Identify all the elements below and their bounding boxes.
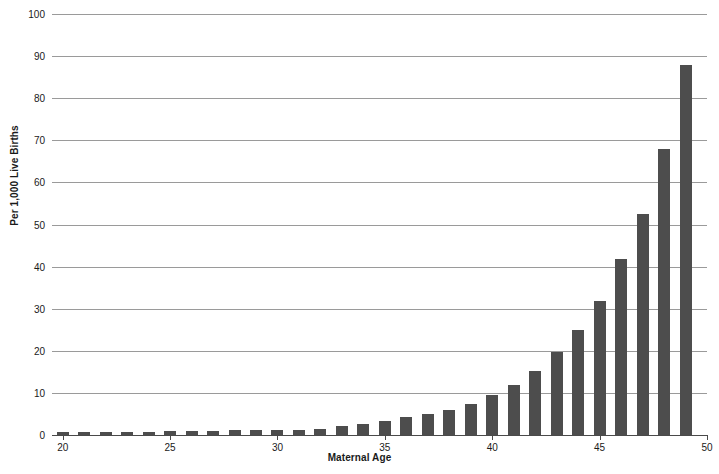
bar	[422, 414, 434, 435]
y-axis-title: Per 1,000 Live Births	[9, 86, 20, 266]
bar	[100, 432, 112, 435]
x-tick-mark	[707, 435, 708, 440]
bar	[143, 432, 155, 435]
bar	[637, 214, 649, 435]
bar	[508, 385, 520, 435]
bar	[680, 65, 692, 435]
bar	[465, 404, 477, 435]
gridline	[52, 98, 707, 99]
bar	[486, 395, 498, 435]
bar	[121, 432, 133, 435]
bar	[529, 371, 541, 435]
gridline	[52, 225, 707, 226]
bar	[293, 430, 305, 435]
bar	[615, 259, 627, 435]
bar	[314, 429, 326, 435]
y-tick-label: 60	[34, 177, 45, 188]
x-tick-mark	[492, 435, 493, 440]
y-tick-label: 90	[34, 51, 45, 62]
y-tick-label: 20	[34, 345, 45, 356]
x-tick-mark	[170, 435, 171, 440]
bar	[357, 424, 369, 435]
gridline	[52, 351, 707, 352]
x-axis-line	[52, 435, 707, 436]
y-tick-label: 100	[28, 9, 45, 20]
gridline	[52, 393, 707, 394]
x-axis-title: Maternal Age	[0, 452, 719, 463]
gridline	[52, 140, 707, 141]
bar	[400, 417, 412, 435]
x-tick-mark	[63, 435, 64, 440]
x-tick-mark	[277, 435, 278, 440]
chart-title	[0, 0, 719, 4]
bar	[443, 410, 455, 435]
bar	[572, 330, 584, 435]
bar	[229, 430, 241, 435]
x-tick-mark	[385, 435, 386, 440]
bar	[379, 421, 391, 435]
y-tick-label: 70	[34, 135, 45, 146]
gridline	[52, 14, 707, 15]
y-tick-label: 40	[34, 261, 45, 272]
gridline	[52, 56, 707, 57]
y-tick-label: 50	[34, 219, 45, 230]
bar	[551, 352, 563, 435]
bar	[250, 430, 262, 435]
y-tick-label: 30	[34, 303, 45, 314]
y-tick-label: 0	[39, 430, 45, 441]
gridline	[52, 182, 707, 183]
chart-figure: Per 1,000 Live Births 010203040506070809…	[0, 0, 719, 474]
gridline	[52, 267, 707, 268]
bar	[186, 431, 198, 435]
bar	[594, 301, 606, 435]
x-tick-mark	[600, 435, 601, 440]
y-tick-label: 80	[34, 93, 45, 104]
y-tick-label: 10	[34, 387, 45, 398]
bar	[78, 432, 90, 435]
bar	[658, 149, 670, 435]
bar	[207, 431, 219, 435]
plot-area: 0102030405060708090100 20253035404550	[52, 14, 707, 435]
gridline	[52, 309, 707, 310]
bar	[336, 426, 348, 435]
